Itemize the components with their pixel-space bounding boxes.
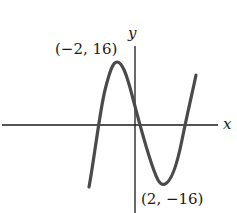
y-axis-label: y	[128, 26, 136, 41]
cubic-graph	[0, 0, 237, 213]
x-axis-label: x	[223, 117, 231, 132]
local-min-label: (2, −16)	[141, 192, 203, 207]
local-max-label: (−2, 16)	[55, 42, 117, 57]
